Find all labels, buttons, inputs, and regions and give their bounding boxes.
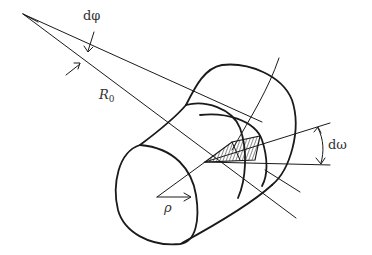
rho-arrow xyxy=(157,162,205,201)
domega-label: dω xyxy=(328,138,347,151)
R0-label: R0 xyxy=(99,88,115,104)
cylinder-body xyxy=(116,58,296,244)
bend-radius-lines xyxy=(23,14,296,218)
curved-cylinder-diagram xyxy=(0,0,372,255)
hatched-surface-element xyxy=(205,136,260,162)
dphi-arrows xyxy=(66,32,94,75)
dphi-label: dφ xyxy=(83,9,100,22)
rho-label: ρ xyxy=(164,201,172,214)
